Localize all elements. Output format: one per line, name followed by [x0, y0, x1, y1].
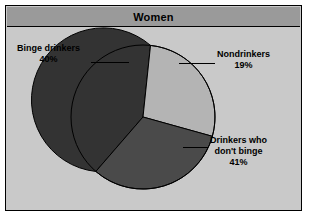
chart-title-bar: Women	[7, 7, 300, 27]
slice-label-nondrinkers-value: 19%	[217, 60, 270, 71]
slice-label-nondrinkers: Nondrinkers 19%	[217, 49, 270, 71]
slice-label-drinkers-no-binge-value: 41%	[210, 157, 267, 168]
leader-line-nondrinkers	[179, 63, 215, 64]
slice-label-binge-drinkers-value: 40%	[17, 54, 80, 65]
slice-label-drinkers-no-binge: Drinkers who don't binge 41%	[210, 135, 267, 168]
slice-label-binge-drinkers: Binge drinkers 40%	[17, 43, 80, 65]
leader-line-drinkers-no-binge	[183, 147, 208, 148]
slice-label-drinkers-no-binge-line2: don't binge	[210, 146, 267, 157]
pie-chart-figure: Women Binge drinkers 40% Nondrinkers 19%…	[0, 0, 310, 221]
slice-label-binge-drinkers-name: Binge drinkers	[17, 43, 80, 54]
leader-line-binge-drinkers	[91, 62, 129, 63]
slice-label-drinkers-no-binge-line1: Drinkers who	[210, 135, 267, 146]
page-title: Women	[133, 11, 174, 23]
slice-label-nondrinkers-name: Nondrinkers	[217, 49, 270, 60]
plot-area: Binge drinkers 40% Nondrinkers 19% Drink…	[7, 27, 300, 209]
